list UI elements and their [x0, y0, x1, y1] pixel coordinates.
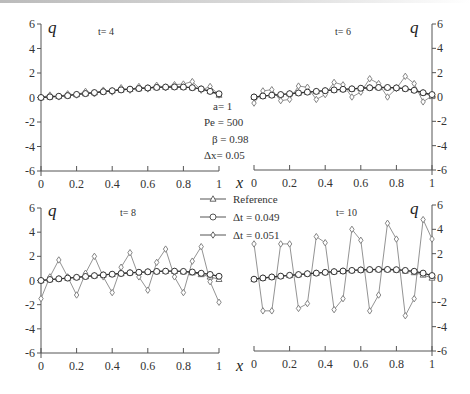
circle-marker [163, 268, 169, 274]
y-tick-label: -4 [25, 322, 35, 336]
circle-marker [65, 275, 71, 281]
circle-marker [322, 269, 328, 275]
circle-marker [287, 272, 293, 278]
diamond-marker [217, 299, 221, 305]
x-tick-label: 1 [429, 176, 435, 190]
diamond-marker [261, 308, 265, 314]
circle-marker [118, 87, 124, 93]
diamond-marker [314, 233, 318, 239]
circle-marker [358, 267, 364, 273]
circle-marker [100, 89, 106, 95]
x-tick-label: 0.4 [318, 176, 333, 190]
x-axis-label: x [235, 357, 243, 374]
y-tick-label: 4 [29, 225, 35, 239]
circle-marker [358, 85, 364, 91]
circle-marker [411, 268, 417, 274]
circle-marker [385, 266, 391, 272]
x-tick-label: 0.8 [389, 176, 404, 190]
x-tick-label: 0 [251, 357, 257, 371]
circle-marker [269, 92, 275, 98]
circle-marker [216, 91, 222, 97]
circle-marker [145, 269, 151, 275]
circle-marker [83, 274, 89, 280]
x-tick-label: 0 [38, 359, 44, 373]
x-tick-label: 0 [251, 176, 257, 190]
x-tick-label: 0.2 [69, 177, 84, 191]
diamond-marker [287, 241, 291, 247]
x-tick-label: 0.2 [282, 357, 297, 371]
circle-marker [304, 89, 310, 95]
x-tick-label: 0.6 [353, 357, 368, 371]
y-tick-label: -2 [437, 295, 447, 309]
x-tick-label: 0.8 [176, 359, 191, 373]
x-tick-label: 0.6 [353, 176, 368, 190]
q-axis-label: q [410, 18, 419, 37]
legend-label: Δt = 0.049 [233, 211, 280, 223]
circle-marker [420, 90, 426, 96]
y-tick-label: -2 [25, 115, 35, 129]
x-axis-label: x [235, 174, 243, 191]
parameter-label: Pe = 500 [204, 116, 244, 128]
circle-marker [331, 269, 337, 275]
x-tick-label: 0.6 [140, 177, 155, 191]
diamond-marker [430, 236, 434, 242]
y-tick-label: 0 [437, 271, 443, 285]
panel-3: 6420-2-4-600.20.40.60.81qt= 8 [25, 201, 222, 373]
legend-label: Δt = 0.051 [233, 229, 280, 241]
circle-marker [118, 270, 124, 276]
circle-marker [420, 270, 426, 276]
y-tick-label: -6 [437, 344, 447, 358]
q-axis-label: q [48, 18, 57, 37]
circle-marker [91, 90, 97, 96]
circle-marker [304, 271, 310, 277]
x-tick-label: 0.4 [105, 177, 120, 191]
circle-marker [56, 276, 62, 282]
x-tick-label: 0.2 [69, 359, 84, 373]
circle-marker [74, 91, 80, 97]
circle-marker [216, 273, 222, 279]
circle-marker [429, 273, 435, 279]
circle-marker [260, 275, 266, 281]
circle-marker [393, 85, 399, 91]
circle-marker [127, 86, 133, 92]
circle-marker [367, 85, 373, 91]
circle-marker [154, 84, 160, 90]
y-tick-label: 2 [437, 66, 443, 80]
diamond-marker [305, 300, 309, 306]
circle-marker [180, 84, 186, 90]
x-tick-label: 0.4 [318, 357, 333, 371]
diamond-marker [296, 305, 300, 311]
circle-marker [109, 88, 115, 94]
x-tick-label: 1 [216, 359, 222, 373]
y-tick-label: 0 [29, 91, 35, 105]
y-tick-label: 4 [29, 42, 35, 56]
circle-marker [340, 86, 346, 92]
x-tick-label: 0.8 [389, 357, 404, 371]
circle-marker [65, 93, 71, 99]
x-tick-label: 1 [216, 177, 222, 191]
circle-marker [385, 85, 391, 91]
parameter-label: β = 0.98 [212, 133, 249, 145]
circle-marker [210, 214, 216, 220]
y-tick-label: 6 [29, 201, 35, 215]
circle-marker [91, 273, 97, 279]
circle-marker [47, 94, 53, 100]
y-tick-label: -4 [437, 139, 447, 153]
circle-marker [322, 88, 328, 94]
circle-marker [127, 270, 133, 276]
diamond-marker [39, 295, 43, 301]
legend: ReferenceΔt = 0.049Δt = 0.051 [200, 193, 280, 241]
circle-marker [331, 87, 337, 93]
circle-marker [189, 85, 195, 91]
parameter-label: Δx= 0.05 [204, 149, 245, 161]
figure-canvas: 6420-2-4-600.20.40.60.81qt= 46420-2-4-60… [0, 0, 470, 394]
circle-marker [38, 278, 44, 284]
circle-marker [109, 271, 115, 277]
y-tick-label: 6 [437, 17, 443, 31]
circle-marker [198, 270, 204, 276]
circle-marker [172, 268, 178, 274]
circle-marker [429, 92, 435, 98]
y-tick-label: -2 [25, 298, 35, 312]
y-tick-label: -6 [437, 163, 447, 177]
x-tick-label: 0.2 [282, 176, 297, 190]
